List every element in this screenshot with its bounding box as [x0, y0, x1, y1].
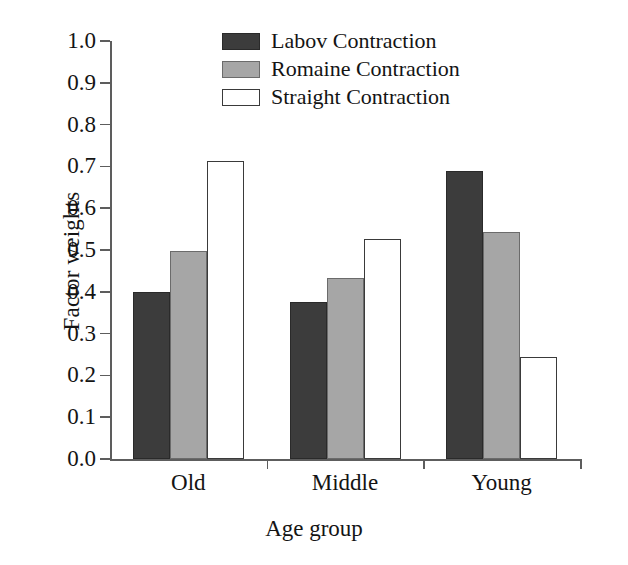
legend-label: Labov Contraction — [271, 30, 437, 52]
x-tick-label-young: Young — [422, 470, 582, 496]
y-tick-mark — [100, 458, 110, 460]
y-tick-label: 0.3 — [0, 321, 96, 347]
x-tick-label-middle: Middle — [265, 470, 425, 496]
y-tick-mark — [100, 40, 110, 42]
x-axis-line — [110, 459, 582, 461]
x-tick-mark — [580, 460, 582, 469]
y-tick-label: 0.4 — [0, 279, 96, 305]
legend-item: Romaine Contraction — [222, 56, 460, 82]
y-tick-label: 0.8 — [0, 112, 96, 138]
x-tick-mark — [423, 460, 425, 469]
legend-swatch-straight — [222, 89, 260, 106]
y-tick-mark — [100, 249, 110, 251]
y-tick-label: 0.9 — [0, 70, 96, 96]
bar-old-straight — [207, 161, 244, 459]
legend-label: Romaine Contraction — [271, 58, 460, 80]
bar-middle-labov — [290, 302, 327, 459]
legend-item: Straight Contraction — [222, 84, 460, 110]
bar-old-romaine — [170, 251, 207, 459]
bar-old-labov — [133, 292, 170, 459]
y-tick-label: 0.6 — [0, 195, 96, 221]
x-tick-mark — [267, 460, 269, 469]
y-tick-mark — [100, 333, 110, 335]
y-tick-label: 0.2 — [0, 362, 96, 388]
legend-swatch-romaine — [222, 61, 260, 78]
y-tick-mark — [100, 124, 110, 126]
bar-young-labov — [446, 171, 483, 459]
y-tick-label: 0.5 — [0, 237, 96, 263]
legend-item: Labov Contraction — [222, 28, 460, 54]
y-tick-label: 0.1 — [0, 404, 96, 430]
chart-legend: Labov ContractionRomaine ContractionStra… — [222, 28, 460, 112]
legend-label: Straight Contraction — [271, 86, 450, 108]
y-tick-mark — [100, 416, 110, 418]
bar-young-straight — [520, 357, 557, 459]
x-tick-label-old: Old — [108, 470, 268, 496]
bar-chart-figure: Factor weights 1.00.90.80.70.60.50.40.30… — [0, 0, 628, 565]
y-tick-mark — [100, 207, 110, 209]
y-tick-mark — [100, 291, 110, 293]
legend-swatch-labov — [222, 33, 260, 50]
y-tick-label: 1.0 — [0, 28, 96, 54]
y-tick-mark — [100, 375, 110, 377]
y-tick-label: 0.0 — [0, 446, 96, 472]
bar-middle-straight — [364, 239, 401, 459]
y-tick-mark — [100, 166, 110, 168]
y-tick-mark — [100, 82, 110, 84]
bar-middle-romaine — [327, 278, 364, 459]
x-axis-title: Age group — [0, 516, 628, 542]
bar-young-romaine — [483, 232, 520, 459]
y-tick-label: 0.7 — [0, 153, 96, 179]
